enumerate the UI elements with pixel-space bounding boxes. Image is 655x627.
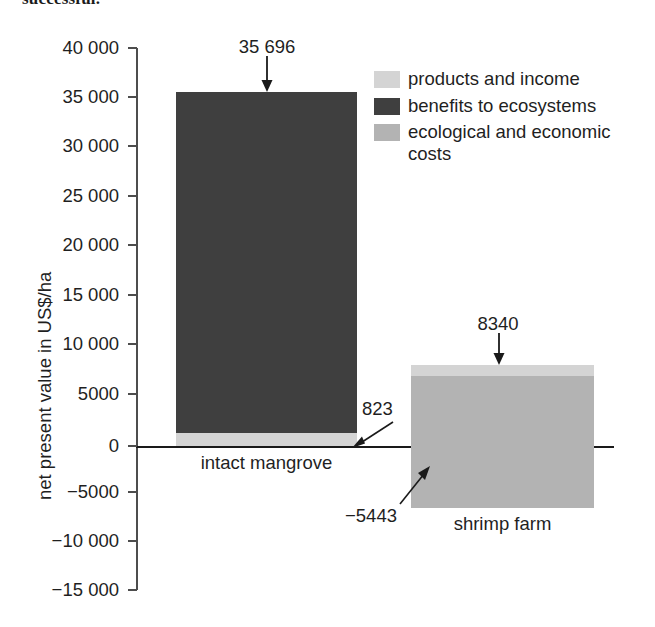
- annotation-arrow-diagonal-minus5443: [398, 466, 434, 506]
- y-tick-mark: [128, 145, 137, 147]
- legend-item-benefits-to-ecosystems: benefits to ecosystems: [374, 95, 649, 117]
- annotation-arrow-down-mangrove: [255, 56, 279, 94]
- y-tick-label: −10 000: [21, 532, 119, 551]
- y-axis-line: [136, 48, 138, 590]
- category-label-shrimp-farm: shrimp farm: [411, 513, 594, 535]
- legend-label: ecological and economic costs: [408, 121, 636, 164]
- annotation-shrimp-products-value: 8340: [458, 313, 538, 335]
- bar-mangrove-products-and-income: [176, 433, 357, 446]
- y-tick-mark: [128, 244, 137, 246]
- y-tick-mark: [128, 96, 137, 98]
- y-tick-label: 20 000: [21, 236, 119, 255]
- y-tick-mark: [128, 589, 137, 591]
- y-tick-mark: [128, 540, 137, 542]
- legend-swatch-icon: [374, 98, 400, 115]
- y-tick-mark: [128, 393, 137, 395]
- annotation-arrow-down-shrimp: [487, 333, 511, 367]
- legend-label: products and income: [408, 68, 580, 90]
- y-tick-label: −15 000: [21, 581, 119, 600]
- legend-swatch-icon: [374, 71, 400, 88]
- legend: products and income benefits to ecosyste…: [374, 68, 649, 170]
- category-label-intact-mangrove: intact mangrove: [176, 452, 357, 474]
- bar-mangrove-benefits-to-ecosystems: [176, 92, 357, 433]
- annotation-mangrove-total-value: 35 696: [222, 36, 312, 58]
- y-tick-label: 35 000: [21, 88, 119, 107]
- y-tick-mark: [128, 47, 137, 49]
- y-tick-label: 40 000: [21, 39, 119, 58]
- legend-item-ecological-and-economic-costs: ecological and economic costs: [374, 121, 649, 164]
- y-tick-mark: [128, 294, 137, 296]
- y-axis-title: net present value in US$/ha: [34, 272, 56, 500]
- legend-swatch-icon: [374, 124, 400, 141]
- y-tick-mark: [128, 343, 137, 345]
- y-tick-label: 25 000: [21, 187, 119, 206]
- bar-chart: 40 000 35 000 30 000 25 000 20 000 15 00…: [0, 0, 655, 627]
- annotation-shrimp-costs-value: −5443: [345, 505, 397, 527]
- legend-item-products-and-income: products and income: [374, 68, 649, 90]
- y-tick-mark: [128, 445, 137, 447]
- bar-shrimp-ecological-and-economic-costs: [411, 376, 594, 508]
- annotation-arrow-diagonal-823: [349, 420, 395, 448]
- y-tick-label: 30 000: [21, 137, 119, 156]
- annotation-mangrove-products-value: 823: [362, 398, 393, 420]
- y-tick-mark: [128, 195, 137, 197]
- legend-label: benefits to ecosystems: [408, 95, 596, 117]
- y-tick-mark: [128, 491, 137, 493]
